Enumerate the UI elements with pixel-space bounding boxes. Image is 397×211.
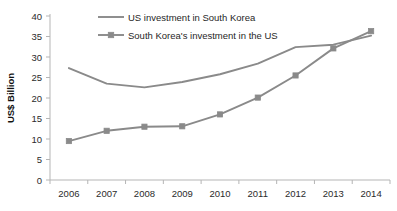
y-axis-tick-label: 35: [31, 31, 42, 42]
series-marker: [180, 124, 185, 129]
y-axis-tick-label: 10: [31, 134, 42, 145]
y-axis-tick-label: 30: [31, 52, 42, 63]
x-axis-tick-label: 2008: [134, 188, 155, 199]
series-marker: [293, 73, 298, 78]
x-axis-tick-label: 2014: [361, 188, 382, 199]
y-axis-tick-label: 5: [37, 154, 42, 165]
y-axis-title: US$ Billion: [5, 73, 16, 123]
series-marker: [331, 46, 336, 51]
line-chart: 0510152025303540200620072008200920102011…: [0, 0, 397, 211]
x-axis-tick-label: 2010: [209, 188, 230, 199]
x-axis-tick-label: 2011: [248, 188, 268, 199]
series-marker: [142, 124, 147, 129]
x-axis-tick-label: 2007: [96, 188, 117, 199]
chart-canvas: 0510152025303540200620072008200920102011…: [0, 0, 397, 211]
y-axis-tick-label: 25: [31, 72, 42, 83]
y-axis-tick-label: 40: [31, 11, 42, 22]
x-axis-tick-label: 2013: [323, 188, 344, 199]
y-axis-tick-label: 20: [31, 93, 42, 104]
y-axis-tick-label: 0: [37, 175, 42, 186]
series-line-1: [69, 36, 371, 88]
series-marker: [66, 138, 71, 143]
series-marker: [104, 128, 109, 133]
series-marker: [217, 112, 222, 117]
x-axis-tick-label: 2012: [285, 188, 306, 199]
x-axis-tick-label: 2006: [58, 188, 79, 199]
series-line-2: [69, 31, 371, 141]
y-axis-tick-label: 15: [31, 113, 42, 124]
series-marker: [255, 95, 260, 100]
x-axis-tick-label: 2009: [172, 188, 193, 199]
legend-label-2: South Korea's investment in the US: [128, 30, 278, 41]
legend-label-1: US investment in South Korea: [128, 12, 256, 23]
legend-marker-2: [108, 32, 113, 37]
series-marker: [369, 29, 374, 34]
